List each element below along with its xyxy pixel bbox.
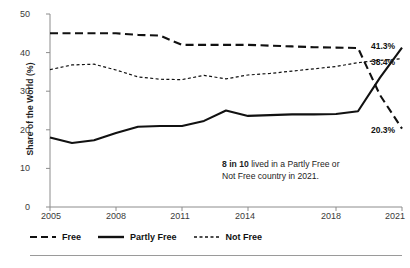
annotation-line2: Not Free country in 2021. [222,171,319,181]
plot-area [0,0,410,268]
legend-item-free[interactable]: Free [30,232,81,242]
legend-item-partly-free[interactable]: Partly Free [98,232,177,242]
chart-annotation: 8 in 10 lived in a Partly Free or Not Fr… [222,158,397,183]
y-axis-ticks [46,14,50,207]
solid-line-key-icon [98,232,124,242]
series-line-partly-free [50,48,402,143]
end-value-partly-free: 41.3% [371,41,395,51]
series-line-free [50,33,402,128]
series-line-not-free [50,59,402,80]
dotted-line-key-icon [194,232,220,242]
chart-legend: Free Partly Free Not Free [30,232,262,242]
x-axis-ticks [50,207,402,211]
legend-item-not-free[interactable]: Not Free [194,232,263,242]
bottom-divider [30,255,402,256]
legend-label-partly-free: Partly Free [130,232,177,242]
chart-figure: Share of the World (%) 0 10 20 30 40 50 … [0,0,410,268]
end-value-free: 20.3% [371,125,395,135]
legend-label-free: Free [62,232,81,242]
end-value-not-free: 38.4% [371,57,395,67]
annotation-line1-rest: lived in a Partly Free or [249,159,340,169]
annotation-bold-text: 8 in 10 [222,159,249,169]
dashed-line-key-icon [30,232,56,242]
legend-label-not-free: Not Free [226,232,263,242]
